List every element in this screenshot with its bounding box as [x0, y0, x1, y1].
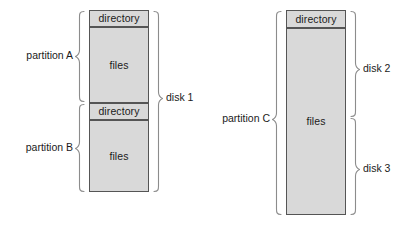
block-label: files: [109, 60, 128, 71]
brace-partition-c: [273, 12, 282, 215]
block-files-c: files: [286, 28, 346, 215]
brace-partition-b: [76, 105, 85, 192]
brace-partition-a: [76, 12, 85, 102]
block-label: directory: [295, 14, 336, 25]
block-directory-a: directory: [89, 10, 149, 27]
label-partition-c: partition C: [196, 113, 270, 124]
block-files-b: files: [89, 120, 149, 192]
brace-disk-1: [154, 12, 163, 192]
label-partition-b: partition B: [0, 142, 73, 153]
block-label: files: [109, 151, 128, 162]
block-directory-c: directory: [286, 10, 346, 28]
label-partition-a: partition A: [0, 50, 73, 61]
block-label: files: [306, 116, 325, 127]
label-text: partition C: [222, 112, 270, 124]
block-directory-b: directory: [89, 103, 149, 120]
label-text: disk 1: [166, 91, 193, 103]
block-label: directory: [98, 13, 139, 24]
label-disk-1: disk 1: [166, 92, 193, 103]
label-text: partition A: [26, 49, 73, 61]
brace-disk-2: [351, 12, 360, 117]
label-text: partition B: [26, 141, 73, 153]
label-text: disk 3: [363, 162, 390, 174]
label-disk-3: disk 3: [363, 163, 390, 174]
label-disk-2: disk 2: [363, 63, 390, 74]
block-label: directory: [98, 106, 139, 117]
brace-disk-3: [351, 119, 360, 215]
label-text: disk 2: [363, 62, 390, 74]
partition-diagram: directory files directory files director…: [0, 0, 417, 231]
block-files-a: files: [89, 27, 149, 103]
